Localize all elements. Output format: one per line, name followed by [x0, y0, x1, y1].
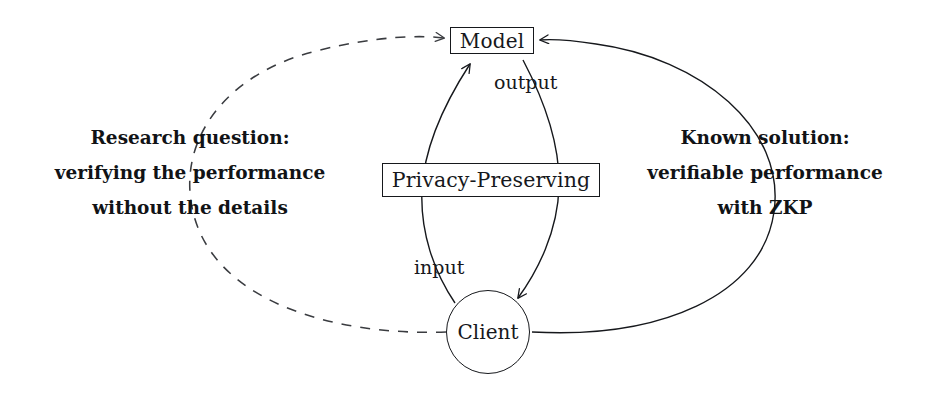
node-client-label: Client [458, 320, 519, 344]
diagram-canvas: Privacy-Preserving Model Client output i… [0, 0, 940, 399]
node-privacy-preserving: Privacy-Preserving [382, 163, 600, 197]
annotation-right-line-1: Known solution: [620, 120, 910, 155]
annotation-left-line-3: without the details [40, 190, 340, 225]
annotation-research-question: Research question: verifying the perform… [40, 120, 340, 225]
edge-label-output: output [494, 71, 557, 93]
annotation-right-line-2: verifiable performance [620, 155, 910, 190]
node-privacy-preserving-label: Privacy-Preserving [392, 168, 590, 192]
node-model: Model [450, 27, 534, 54]
annotation-left-line-1: Research question: [40, 120, 340, 155]
edge-label-input: input [414, 256, 464, 278]
node-model-label: Model [460, 29, 525, 53]
annotation-known-solution: Known solution: verifiable performance w… [620, 120, 910, 225]
annotation-right-line-3: with ZKP [620, 190, 910, 225]
annotation-left-line-2: verifying the performance [40, 155, 340, 190]
node-client: Client [446, 290, 530, 374]
